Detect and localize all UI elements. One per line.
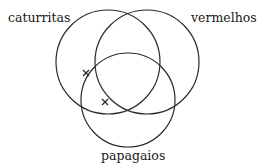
label-papagaios: papagaios — [101, 148, 165, 163]
marker-x-1 — [83, 70, 89, 76]
circle-vermelhos — [95, 10, 199, 114]
venn-diagram: caturritas vermelhos papagaios — [0, 0, 262, 167]
circle-papagaios — [81, 53, 175, 147]
circle-caturritas — [56, 10, 160, 114]
label-vermelhos: vermelhos — [190, 10, 257, 25]
marker-x-2 — [102, 99, 108, 105]
label-caturritas: caturritas — [8, 10, 70, 25]
